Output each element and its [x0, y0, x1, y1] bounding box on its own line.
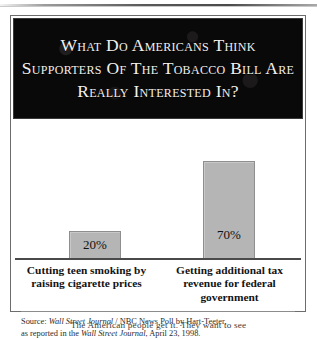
source-line2-prefix: as reported in the — [21, 329, 81, 338]
chart-title: What Do Americans Think Supporters Of Th… — [14, 34, 302, 102]
category-label-1: Getting additional tax revenue for feder… — [158, 264, 301, 304]
source-line2-suffix: , April 23, 1998. — [146, 329, 201, 338]
source-publication-2: Wall Street Journal — [81, 329, 146, 338]
chart-baseline-axis — [15, 258, 301, 260]
chart-figure: What Do Americans Think Supporters Of Th… — [10, 15, 306, 312]
bar-cutting-teen-smoking[interactable]: 20% — [69, 231, 121, 259]
bar-tax-revenue[interactable]: 70% — [203, 161, 255, 259]
bar-value-label-1: 70% — [217, 227, 241, 243]
chart-plot-area: 20% 70% — [13, 119, 303, 259]
page-edge-artifact-line-secondary — [0, 6, 317, 7]
source-divider — [21, 311, 295, 312]
page-body-copy: The American people get it. They want to… — [0, 320, 317, 330]
category-labels: Cutting teen smoking by raising cigarett… — [15, 264, 301, 304]
chart-title-banner: What Do Americans Think Supporters Of Th… — [13, 18, 303, 119]
category-label-0: Cutting teen smoking by raising cigarett… — [15, 264, 158, 304]
bar-value-label-0: 20% — [83, 237, 107, 253]
